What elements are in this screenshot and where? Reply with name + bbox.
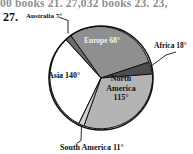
pie-label-north-america-line1: North <box>98 74 144 84</box>
callout-line-africa <box>151 52 177 67</box>
pie-chart <box>0 0 193 154</box>
pie-label-north-america: North America 115° <box>98 74 144 103</box>
pie-label-africa: Africa 18° <box>154 41 187 50</box>
pie-label-north-america-line3: 115° <box>98 93 144 103</box>
pie-label-south-america: South America 11° <box>60 143 124 152</box>
pie-label-north-america-line2: America <box>98 84 144 94</box>
pie-label-europe: Europe 68° <box>84 36 120 45</box>
pie-label-asia: Asia 140° <box>48 71 80 80</box>
callout-line-south-america <box>77 125 82 143</box>
textbook-figure-panel: 00 books 21. 27,032 books 23. 23, 27. Au… <box>0 0 193 154</box>
pie-label-australia: Australia 7° <box>26 12 62 20</box>
